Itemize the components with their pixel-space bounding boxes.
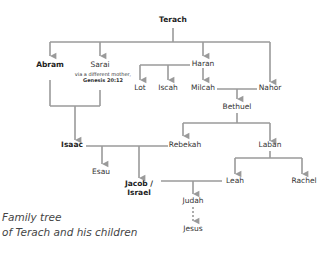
person-isaac: Isaac [61,141,83,150]
person-milcah: Milcah [191,84,215,93]
person-leah: Leah [226,177,244,186]
person-rachel: Rachel [291,177,316,186]
person-esau: Esau [92,168,110,177]
person-terach: Terach [159,16,187,25]
person-sarai: Sarai [90,61,109,70]
person-haran: Haran [192,60,215,69]
person-nahor: Nahor [259,84,282,93]
person-iscah: Iscah [158,84,178,93]
person-rebekah: Rebekah [169,141,201,150]
sarai-note: via a different mother, Genesis 20:12 [75,71,131,84]
person-abram: Abram [36,61,64,70]
diagram-caption: Family tree of Terach and his children [2,210,137,239]
caption-line2: of Terach and his children [2,225,137,240]
sarai-note-reference: Genesis 20:12 [75,77,131,83]
person-laban: Laban [259,141,282,150]
person-lot: Lot [134,84,146,93]
person-jacob-israel: Jacob / Israel [125,180,153,197]
caption-line1: Family tree [2,210,137,225]
jacob-name-line2: Israel [125,189,153,198]
person-judah: Judah [182,197,203,206]
person-jesus: Jesus [183,225,202,234]
person-bethuel: Bethuel [223,103,252,112]
